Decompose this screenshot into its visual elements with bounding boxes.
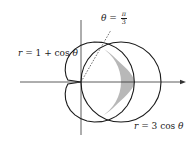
angle-ray-dashed xyxy=(81,30,111,82)
cardioid-label: r = 1 + cos θ xyxy=(18,49,78,58)
angle-label-denominator: 3 xyxy=(121,19,127,26)
cardioid-label-eq: = 1 + cos xyxy=(22,48,72,58)
angle-label-equals: = xyxy=(106,13,119,23)
x-axis-arrowhead xyxy=(180,80,186,84)
circle-label-eq: = 3 cos xyxy=(138,121,178,131)
circle-label-theta: θ xyxy=(178,121,183,131)
circle-label: r = 3 cos θ xyxy=(134,122,184,131)
angle-label-fraction: π3 xyxy=(121,11,127,25)
angle-label: θ = π3 xyxy=(101,11,127,25)
cardioid-label-theta: θ xyxy=(73,48,78,58)
